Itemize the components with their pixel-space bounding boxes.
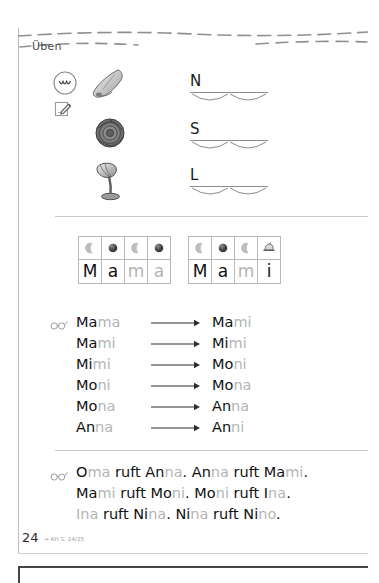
phoneme-marker-cell [79,237,102,260]
syllable: Mo [212,356,233,372]
page-reference: → AH S. 24/25 [44,536,84,542]
syllable: Mo [150,485,171,501]
next-page-edge-corner [18,566,20,583]
syllable: Ni [243,506,258,522]
syllable-box-mami: Mami [188,236,281,284]
syllable-box-mama: Mama [78,236,171,284]
chain-word-source: Mimi [76,357,150,372]
syllable: Ni [133,506,148,522]
filled-circle-icon [153,242,165,254]
page-number: 24 [22,530,39,545]
word-chain-row: MonaAnna [76,396,326,417]
letter-row-l: L [190,168,272,200]
chain-word-source: Anna [76,420,150,435]
letter-row: Mami [189,260,281,284]
letter-label: L [190,168,272,183]
chain-word-target: Mimi [212,336,247,351]
syllable: . [286,485,291,501]
nose-picture [88,68,130,102]
syllable: mi [229,335,247,351]
syllable: na [211,464,229,480]
syllable: ni [233,356,246,372]
syllable: na [233,377,251,393]
syllable: Mi [76,356,93,372]
crescent-moon-icon [240,242,252,254]
arrow-right-icon [150,339,212,349]
section-divider [55,450,368,451]
filled-circle-icon [217,242,229,254]
word-chain-list: MamaMamiMamiMimiMimiMoniMoniMonaMonaAnna… [76,312,326,438]
syllable: O [76,464,87,480]
letter-cell: i [258,260,281,284]
syllable: na [268,485,286,501]
syllable: mi [285,464,303,480]
marker-row [79,237,171,260]
page-frame-bottom-rule [18,553,368,554]
syllable: na [80,506,98,522]
syllable: . [303,464,308,480]
syllable: mi [97,485,115,501]
syllable: na [190,506,208,522]
arrow-right-icon [150,402,212,412]
syllable: na [231,398,249,414]
letter-cell: m [125,260,148,284]
syllable: Ma [212,314,233,330]
glasses-read-icon [50,466,68,476]
letter-label: N [190,74,272,89]
syllable: ruft [116,485,151,501]
syllable: ni [172,485,185,501]
syllable-arcs-icon [190,141,270,154]
syllable: Mo [194,485,215,501]
marker-row [189,237,281,260]
letter-cell: a [102,260,125,284]
phoneme-marker-cell [258,237,281,260]
letter-cell: M [189,260,212,284]
syllable: ni [216,485,229,501]
letter-cell: m [235,260,258,284]
syllable: . [183,464,192,480]
workbook-page: Üben [0,0,379,583]
crescent-moon-icon [194,242,206,254]
syllable: no [258,506,276,522]
syllable: Ma [76,314,97,330]
phoneme-marker-cell [189,237,212,260]
letter-row-n: N [190,74,272,106]
sentence-line: Oma ruft Anna. Anna ruft Mami. [76,462,361,483]
glasses-read-icon [50,315,68,325]
word-chain-row: MamiMimi [76,333,326,354]
lamp-picture [90,160,130,202]
syllable-arcs-icon [190,187,270,200]
syllable: ruft [229,485,264,501]
syllable: ma [97,314,120,330]
next-page-edge [18,566,368,568]
syllable: An [145,464,164,480]
syllable: ni [97,377,110,393]
letter-cell: a [212,260,235,284]
chain-word-target: Moni [212,357,247,372]
word-chain-row: MimiMoni [76,354,326,375]
word-chain-row: MoniMona [76,375,326,396]
syllable: Mo [212,377,233,393]
syllable: ruft [98,506,133,522]
chain-word-target: Mona [212,378,251,393]
syllable: An [212,419,231,435]
sentence-line: Mami ruft Moni. Moni ruft Ina. [76,483,361,504]
syllable: ruft [110,464,145,480]
word-chain-row: AnnaAnni [76,417,326,438]
arrow-right-icon [150,423,212,433]
spinning-top-icon [262,242,276,254]
chain-word-target: Anna [212,399,249,414]
syllable: . [185,485,194,501]
syllable: Mo [76,377,97,393]
syllable: ruft [208,506,243,522]
rose-picture [90,116,130,150]
phoneme-marker-cell [212,237,235,260]
section-divider [55,216,368,217]
word-chain-row: MamaMami [76,312,326,333]
syllable: Ma [76,335,97,351]
syllable-box-table: Mama [78,236,171,284]
syllable: . [276,506,281,522]
chain-word-source: Mona [76,399,150,414]
syllable-arcs-icon [190,93,270,106]
letter-cell: M [79,260,102,284]
